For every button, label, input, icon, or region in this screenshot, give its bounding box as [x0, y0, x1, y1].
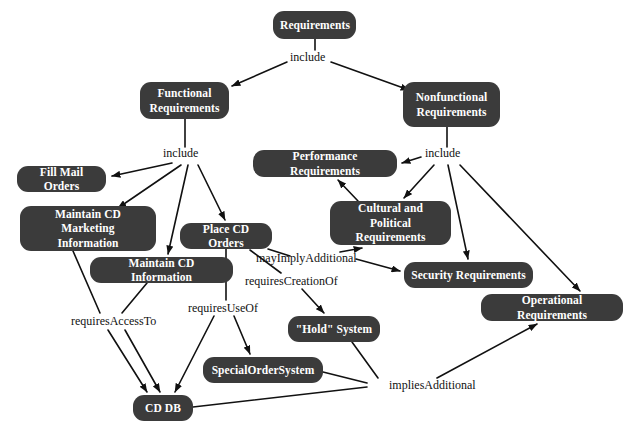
edge-include-place-cd-orders [198, 165, 225, 220]
edge-include-performance [402, 157, 421, 163]
node-cultural-and-political-requirements[interactable]: Cultural and PoliticalRequirements [330, 201, 451, 245]
edge-label-implies-additional: impliesAdditional [389, 379, 476, 391]
node-fill-mail-orders-label: Fill Mail Orders [24, 165, 99, 194]
node-cultural-and-political-requirements-label: Cultural and PoliticalRequirements [337, 201, 444, 244]
edge-label-requires-creation-of: requiresCreationOf [245, 275, 338, 287]
edge-label-requires-use-of: requiresUseOf [188, 302, 258, 314]
node-fill-mail-orders[interactable]: Fill Mail Orders [17, 166, 106, 192]
edge-include-nonfunctional [331, 62, 409, 90]
node-security-requirements-label: Security Requirements [411, 268, 526, 282]
edge-label-include-nonfunctional: include [425, 147, 460, 159]
edge-requires-use-special-order-system [234, 316, 250, 354]
edge-label-requires-access-to: requiresAccessTo [71, 315, 156, 327]
node-operational-requirements[interactable]: Operational Requirements [481, 294, 623, 321]
edge-requires-access-cd-db-a [108, 330, 147, 392]
edge-include-maintain-cd-marketing [118, 165, 181, 208]
edge-cd-db-implies-additional [193, 387, 367, 407]
node-hold-system[interactable]: "Hold" System [288, 316, 380, 342]
edge-label-include-functional: include [163, 147, 198, 159]
edge-include-fill-mail-orders [112, 163, 172, 176]
node-cd-db-label: CD DB [140, 401, 186, 415]
edge-label-may-imply-additional: mayImplyAdditional [256, 252, 357, 264]
edge-include-functional [232, 62, 287, 86]
node-hold-system-label: "Hold" System [295, 322, 373, 336]
node-cd-db[interactable]: CD DB [133, 395, 193, 421]
edge-hold-system-implies-additional [352, 342, 378, 378]
node-requirements[interactable]: Requirements [273, 11, 356, 39]
node-special-order-system[interactable]: SpecialOrderSystem [203, 357, 323, 383]
edge-include-security [448, 165, 468, 259]
edge-maintain-cd-information-requires-access [122, 283, 147, 313]
concept-map-diagram: Requirements FunctionalRequirements Nonf… [0, 0, 634, 435]
node-performance-requirements[interactable]: Performance Requirements [253, 150, 397, 177]
edge-include-cultural-political [404, 165, 434, 198]
edge-special-order-system-implies-additional [323, 372, 367, 383]
node-maintain-cd-marketing-information[interactable]: Maintain CD MarketingInformation [20, 206, 156, 251]
node-nonfunctional-requirements[interactable]: NonfunctionalRequirements [403, 82, 500, 127]
node-place-cd-orders-label: Place CD Orders [187, 222, 265, 251]
node-maintain-cd-information[interactable]: Maintain CD Information [90, 257, 233, 283]
edge-requires-access-cd-db-b [125, 330, 160, 392]
node-requirements-label: Requirements [280, 18, 349, 32]
edge-may-imply-security [356, 259, 400, 271]
edge-label-include-top: include [290, 51, 325, 63]
node-functional-requirements-label: FunctionalRequirements [147, 86, 222, 115]
node-nonfunctional-requirements-label: NonfunctionalRequirements [410, 90, 493, 119]
node-place-cd-orders[interactable]: Place CD Orders [180, 223, 272, 249]
node-security-requirements[interactable]: Security Requirements [404, 262, 533, 288]
node-maintain-cd-information-label: Maintain CD Information [97, 256, 226, 285]
node-performance-requirements-label: Performance Requirements [260, 149, 390, 178]
edge-implies-additional-operational [437, 324, 537, 378]
node-special-order-system-label: SpecialOrderSystem [210, 363, 316, 377]
node-functional-requirements[interactable]: FunctionalRequirements [140, 82, 229, 119]
node-operational-requirements-label: Operational Requirements [488, 293, 616, 322]
edge-cultural-to-performance [338, 180, 358, 201]
node-maintain-cd-marketing-information-label: Maintain CD MarketingInformation [27, 207, 149, 250]
edge-requires-creation-hold-system [302, 289, 324, 313]
